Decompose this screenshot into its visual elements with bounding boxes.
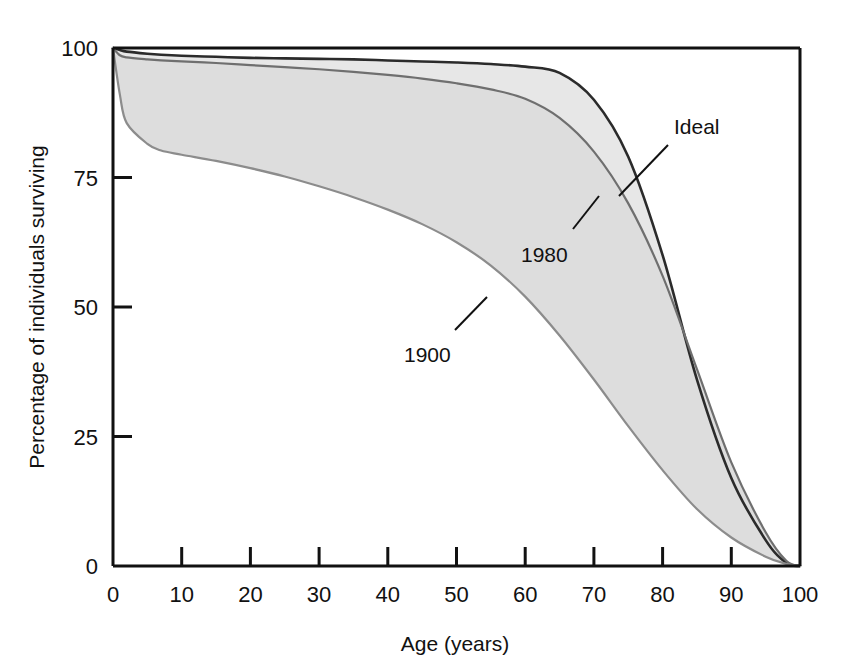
- x-tick-label-50: 50: [444, 582, 468, 607]
- x-tick-label-100: 100: [782, 582, 819, 607]
- curve-label-ideal: Ideal: [674, 115, 720, 138]
- x-tick-label-40: 40: [376, 582, 400, 607]
- y-axis-tick-labels: 0255075100: [61, 36, 98, 579]
- chart-svg: 0255075100 0102030405060708090100 Ideal …: [0, 0, 856, 669]
- y-tick-label-50: 50: [74, 295, 98, 320]
- survivorship-curve-chart: 0255075100 0102030405060708090100 Ideal …: [0, 0, 856, 669]
- x-axis-ticks: [182, 547, 732, 566]
- x-tick-label-30: 30: [307, 582, 331, 607]
- y-axis-title: Percentage of individuals surviving: [25, 145, 48, 468]
- y-tick-label-25: 25: [74, 425, 98, 450]
- x-tick-label-20: 20: [238, 582, 262, 607]
- y-tick-label-75: 75: [74, 166, 98, 191]
- curve-label-1900: 1900: [404, 343, 451, 366]
- y-tick-label-100: 100: [61, 36, 98, 61]
- x-axis-tick-labels: 0102030405060708090100: [107, 582, 818, 607]
- x-tick-label-10: 10: [169, 582, 193, 607]
- y-tick-label-0: 0: [86, 554, 98, 579]
- x-tick-label-90: 90: [719, 582, 743, 607]
- x-tick-label-70: 70: [582, 582, 606, 607]
- x-axis-title: Age (years): [401, 632, 510, 655]
- curve-label-1980: 1980: [521, 243, 568, 266]
- y-axis-ticks: [113, 178, 132, 437]
- annotation-1900: 1900: [404, 297, 487, 366]
- x-tick-label-0: 0: [107, 582, 119, 607]
- x-tick-label-60: 60: [513, 582, 537, 607]
- x-tick-label-80: 80: [650, 582, 674, 607]
